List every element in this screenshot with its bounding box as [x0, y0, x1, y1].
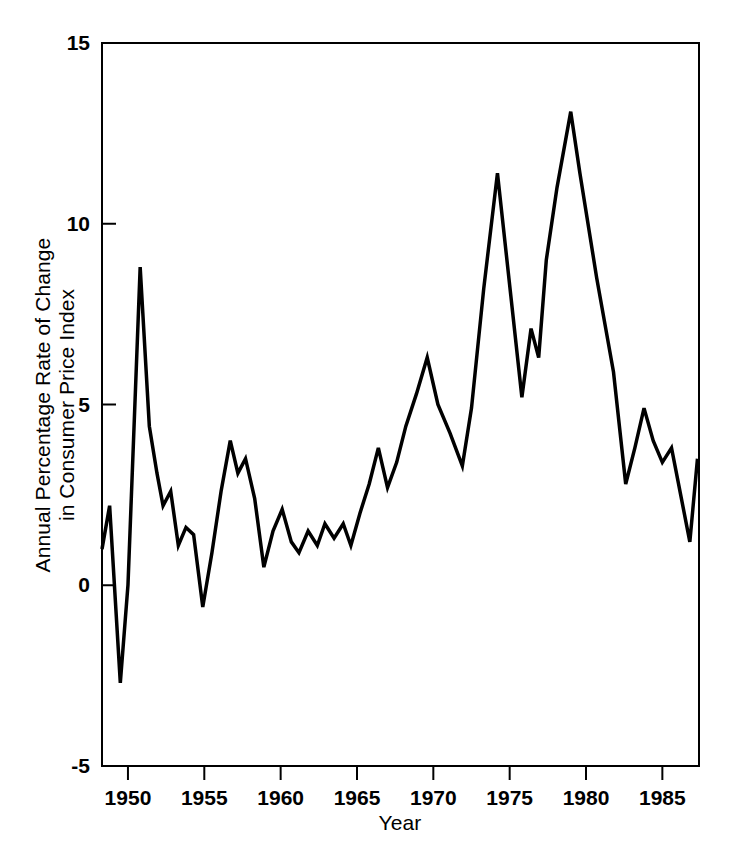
x-tick-label: 1985 [639, 786, 686, 809]
x-tick-label: 1955 [181, 786, 228, 809]
y-tick-label: 0 [78, 573, 90, 596]
x-tick-label: 1970 [410, 786, 457, 809]
chart-background [0, 0, 733, 855]
x-tick-label: 1950 [105, 786, 152, 809]
cpi-line-chart-figure: -5051015 1950195519601965197019751980198… [0, 0, 733, 855]
x-axis-title: Year [379, 811, 422, 834]
y-axis-title-line-2: in Consumer Price Index [55, 288, 78, 521]
x-tick-label: 1980 [563, 786, 610, 809]
chart-canvas: -5051015 1950195519601965197019751980198… [0, 0, 733, 855]
y-tick-label: 15 [67, 31, 91, 54]
x-tick-label: 1975 [486, 786, 533, 809]
y-axis-title-line-1: Annual Percentage Rate of Change [31, 238, 54, 573]
x-tick-label: 1965 [334, 786, 381, 809]
y-tick-label: -5 [71, 754, 90, 777]
y-tick-label: 5 [78, 393, 90, 416]
y-tick-label: 10 [67, 212, 90, 235]
x-tick-label: 1960 [257, 786, 304, 809]
